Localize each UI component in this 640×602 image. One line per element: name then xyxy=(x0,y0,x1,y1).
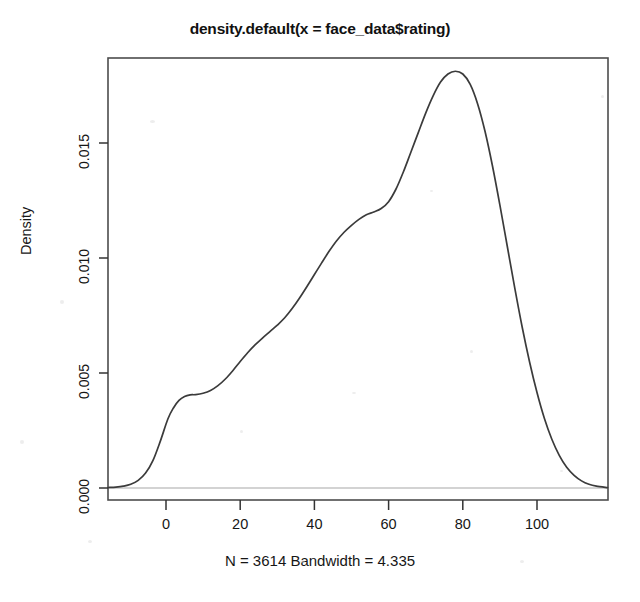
scan-speck xyxy=(300,560,305,563)
x-tick-label-1: 20 xyxy=(232,516,248,532)
density-curve xyxy=(108,71,607,487)
x-tick-label-4: 80 xyxy=(455,516,471,532)
chart-subtitle: N = 3614 Bandwidth = 4.335 xyxy=(0,552,640,569)
scan-speck xyxy=(20,440,24,444)
scan-speck xyxy=(430,190,433,192)
scan-speck xyxy=(240,430,243,433)
x-tick-label-2: 40 xyxy=(306,516,322,532)
plot-canvas xyxy=(0,0,640,602)
density-plot-figure: density.default(x = face_data$rating) De… xyxy=(0,0,640,602)
scan-speck xyxy=(88,540,92,543)
scan-speck xyxy=(352,392,356,394)
scan-speck xyxy=(560,470,563,472)
x-tick-label-3: 60 xyxy=(381,516,397,532)
x-tick-label-5: 100 xyxy=(525,516,549,532)
scan-speck xyxy=(150,120,155,123)
scan-speck xyxy=(470,350,473,353)
x-tick-label-0: 0 xyxy=(162,516,170,532)
plot-frame xyxy=(108,58,608,500)
y-tick-label-3: 0.015 xyxy=(76,134,92,169)
scan-speck xyxy=(520,560,524,563)
scan-speck xyxy=(601,95,604,98)
scan-speck xyxy=(60,300,64,304)
y-tick-label-2: 0.010 xyxy=(76,249,92,284)
y-tick-label-1: 0.005 xyxy=(76,364,92,399)
y-tick-label-0: 0.000 xyxy=(76,479,92,514)
